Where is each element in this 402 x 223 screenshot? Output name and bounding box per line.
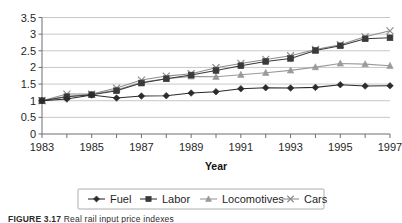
y-axis-tick-label: 2.5 — [21, 45, 36, 57]
diamond-marker — [337, 81, 344, 88]
x-axis-tick-label: 1983 — [30, 141, 54, 153]
square-marker — [146, 196, 151, 201]
figure-caption-text: Real rail input price indexes — [64, 214, 174, 223]
diamond-marker — [312, 84, 319, 91]
figure-caption: FIGURE 3.17 Real rail input price indexe… — [8, 214, 174, 223]
y-axis-tick-label: 0 — [30, 128, 36, 140]
figure-caption-label: FIGURE 3.17 — [8, 214, 61, 223]
y-axis-tick-label: 2 — [30, 61, 36, 73]
diamond-marker — [138, 93, 145, 100]
diamond-marker — [287, 85, 294, 92]
x-axis-tick-label: 1989 — [179, 141, 203, 153]
y-axis-tick-label: 1 — [30, 95, 36, 107]
x-axis-tick-label: 1995 — [328, 141, 352, 153]
y-axis-tick-label: 0.5 — [21, 111, 36, 123]
y-axis-tick-label: 3.5 — [21, 12, 36, 24]
square-marker — [263, 59, 269, 65]
y-axis-tick-label: 1.5 — [21, 78, 36, 90]
square-marker — [188, 72, 194, 78]
diamond-marker — [262, 84, 269, 91]
square-marker — [387, 35, 393, 41]
diamond-marker — [163, 92, 170, 99]
diamond-marker — [213, 88, 220, 95]
square-marker — [114, 88, 120, 94]
square-marker — [163, 76, 169, 82]
x-axis-title: Year — [205, 160, 227, 172]
x-axis-tick-label: 1993 — [278, 141, 302, 153]
x-axis-tick-label: 1991 — [229, 141, 253, 153]
legend-label: Cars — [304, 193, 328, 205]
x-axis-tick-label: 1997 — [378, 141, 402, 153]
square-marker — [288, 56, 294, 62]
square-marker — [213, 68, 219, 74]
legend-label: Labor — [162, 193, 190, 205]
square-marker — [313, 48, 319, 54]
square-marker — [238, 63, 244, 69]
diamond-marker — [188, 90, 195, 97]
chart-legend: FuelLaborLocomotivesCars — [78, 189, 328, 209]
square-marker — [337, 43, 343, 49]
x-axis-tick-label: 1987 — [129, 141, 153, 153]
figure-container: 00.511.522.533.5198319851987198919911993… — [0, 0, 402, 223]
square-marker — [362, 36, 368, 42]
x-axis-ticks: 19831985198719891991199319951997 — [30, 134, 402, 153]
y-axis-tick-label: 3 — [30, 28, 36, 40]
legend-label: Fuel — [110, 193, 131, 205]
line-chart: 00.511.522.533.5198319851987198919911993… — [0, 0, 402, 223]
cross-marker — [387, 27, 394, 34]
y-gridlines: 00.511.522.533.5 — [21, 12, 390, 141]
x-axis-tick-label: 1985 — [79, 141, 103, 153]
legend-label: Locomotives — [222, 193, 284, 205]
diamond-marker — [238, 85, 245, 92]
diamond-marker — [387, 82, 394, 89]
square-marker — [139, 80, 145, 86]
